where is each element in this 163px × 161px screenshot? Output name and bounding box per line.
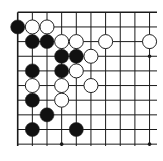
- star-point: [60, 142, 64, 146]
- white-stone: [25, 79, 39, 93]
- black-stone: [40, 108, 54, 122]
- black-stone: [25, 64, 39, 78]
- black-stone: [25, 93, 39, 107]
- white-stone: [69, 35, 83, 49]
- white-stone: [69, 64, 83, 78]
- white-stone: [99, 35, 113, 49]
- white-stone: [84, 79, 98, 93]
- white-stone: [143, 35, 157, 49]
- black-stone: [55, 49, 69, 63]
- white-stone: [55, 79, 69, 93]
- black-stone: [25, 122, 39, 136]
- white-stone: [55, 93, 69, 107]
- black-stone: [25, 35, 39, 49]
- star-point: [148, 54, 152, 58]
- white-stone: [40, 20, 54, 34]
- white-stone: [84, 49, 98, 63]
- black-stone: [55, 64, 69, 78]
- go-board: [0, 0, 163, 161]
- black-stone: [40, 35, 54, 49]
- white-stone: [25, 20, 39, 34]
- black-stone: [69, 122, 83, 136]
- star-point: [148, 142, 152, 146]
- white-stone: [55, 35, 69, 49]
- black-stone: [11, 20, 25, 34]
- black-stone: [69, 49, 83, 63]
